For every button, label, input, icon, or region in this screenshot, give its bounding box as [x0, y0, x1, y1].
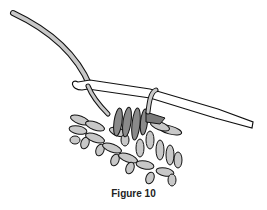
crochet-illustration	[0, 0, 267, 210]
crochet-hook-diagram	[0, 0, 267, 210]
figure-caption: Figure 10	[0, 188, 267, 199]
working-yarn	[13, 13, 90, 86]
